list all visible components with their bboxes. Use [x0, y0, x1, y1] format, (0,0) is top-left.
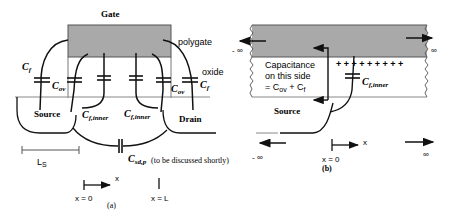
x0-label-b: x = 0 — [322, 155, 340, 164]
drain-label: Drain — [179, 114, 202, 124]
cf-inner-left-label: Cf,inner — [82, 109, 109, 122]
figure-b: - ∞ ∞ Capacitance on this side = Cov + C… — [232, 25, 437, 173]
source-label-b: Source — [274, 106, 300, 116]
x-axis-label: x — [115, 174, 119, 183]
cf-inner-label-b: Cf,inner — [362, 76, 389, 89]
pos-inf-top: ∞ — [431, 46, 437, 55]
capacitor-csd — [119, 139, 122, 153]
x-axis-label-b: x — [363, 138, 367, 147]
mosfet-capacitance-diagram: Gate polygate oxide — [0, 0, 452, 219]
capacitor-cf-left — [34, 78, 50, 82]
cf-left-label: Cf — [22, 61, 32, 74]
gate-label: Gate — [101, 9, 120, 19]
capacitance-note: Capacitance on this side — [265, 60, 318, 81]
cf-inner-right-label: Cf,inner — [124, 108, 151, 121]
ov-line-right — [152, 54, 163, 112]
polygate-label: polygate — [178, 37, 212, 47]
gate-band-b — [252, 25, 427, 57]
neg-inf-bottom: - ∞ — [252, 153, 263, 162]
x-axis-a: x — [84, 174, 119, 190]
csd-arc — [73, 128, 167, 146]
fringe-line-left-outer — [40, 40, 68, 110]
oxide-label: oxide — [202, 67, 224, 77]
x-axis-b: x — [332, 138, 367, 151]
x0-label: x = 0 — [75, 194, 93, 203]
figure-a: Gate polygate oxide — [15, 9, 229, 210]
cov-right-label: Cov — [171, 83, 185, 96]
cf-right-label: Cf — [200, 79, 210, 92]
csd-label: Csd,p — [128, 153, 147, 166]
xL-label: x = L — [151, 194, 169, 203]
caption-b: (b) — [322, 164, 332, 173]
capacitor-cf-right — [182, 78, 198, 82]
capacitance-formula: = Cov + Cf — [265, 82, 305, 93]
ls-label: LS — [37, 157, 47, 168]
csd-note: (to be discussed shortly) — [151, 156, 229, 165]
caption-a: (a) — [107, 201, 116, 210]
neg-inf-top: - ∞ — [232, 46, 243, 55]
source-label: Source — [34, 109, 60, 119]
plus-charges: + + + + + + + + + — [336, 59, 403, 69]
ls-dimension — [22, 146, 79, 154]
polygate-block — [68, 25, 171, 57]
cov-left-label: Cov — [52, 80, 66, 93]
ov-line-left — [71, 54, 88, 112]
pos-inf-bottom: ∞ — [423, 150, 429, 159]
